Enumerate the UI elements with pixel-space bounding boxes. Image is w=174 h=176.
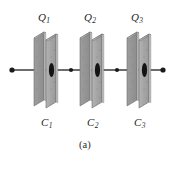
capacitors-in-series-figure: Q1 Q2 Q3 C1 C2 C3 (a) bbox=[0, 0, 174, 176]
capacitance-label-c1: C1 bbox=[41, 117, 52, 130]
charge-label-q1: Q1 bbox=[38, 12, 50, 25]
figure-stage: Q1 Q2 Q3 C1 C2 C3 (a) bbox=[0, 0, 174, 176]
charge-symbol-q3: Q bbox=[131, 11, 139, 23]
charge-subscript-q2: 2 bbox=[92, 16, 96, 25]
capacitance-symbol-c2: C bbox=[87, 116, 94, 128]
charge-symbol-q2: Q bbox=[84, 11, 92, 23]
capacitor-1 bbox=[34, 32, 58, 108]
capacitor-3 bbox=[127, 32, 151, 108]
charge-subscript-q1: 1 bbox=[46, 16, 50, 25]
capacitance-subscript-c3: 3 bbox=[142, 121, 146, 130]
capacitance-label-c2: C2 bbox=[87, 117, 98, 130]
capacitance-symbol-c3: C bbox=[134, 116, 141, 128]
capacitance-label-c3: C3 bbox=[134, 117, 145, 130]
charge-symbol-q1: Q bbox=[38, 11, 46, 23]
capacitance-subscript-c1: 1 bbox=[49, 121, 53, 130]
figure-caption: (a) bbox=[79, 140, 91, 151]
charge-label-q3: Q3 bbox=[131, 12, 143, 25]
capacitance-subscript-c2: 2 bbox=[95, 121, 99, 130]
charge-label-q2: Q2 bbox=[84, 12, 96, 25]
capacitance-symbol-c1: C bbox=[41, 116, 48, 128]
capacitor-2 bbox=[80, 32, 104, 108]
charge-subscript-q3: 3 bbox=[139, 16, 143, 25]
